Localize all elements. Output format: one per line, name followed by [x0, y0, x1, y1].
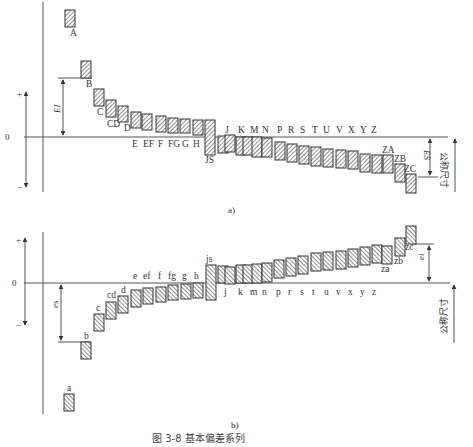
shaft-bar-n: [262, 263, 272, 282]
hole-bar-S: [299, 146, 309, 164]
hole-bar-label: Z: [371, 125, 377, 135]
shaft-bar-label: k: [238, 287, 243, 297]
hole-bar-G: [180, 119, 190, 133]
shaft-bar-label: zb: [394, 256, 403, 266]
hole-bar-label: R: [288, 125, 295, 135]
figure-caption: 图 3-8 基本偏差系列: [152, 432, 245, 444]
hole-bar-label: S: [300, 125, 305, 135]
shaft-bar-zb: [395, 238, 405, 256]
shaft-bar-label: t: [312, 287, 315, 297]
hole-bar-D: [118, 106, 128, 122]
shaft-bar-label: n: [262, 287, 267, 297]
hole-bar-sub: [225, 135, 235, 152]
hole-bar-label: P: [277, 125, 282, 135]
es-label: es: [50, 300, 60, 308]
EI-label: EI: [52, 104, 62, 114]
hole-bar-label: Y: [360, 125, 367, 135]
hole-bar-Y: [360, 154, 370, 172]
hole-bar-R: [287, 144, 297, 162]
hole-bar-label: N: [262, 125, 269, 135]
hole-bar-label: V: [336, 125, 343, 135]
shaft-bar-e: [131, 290, 141, 307]
hole-bar-label: ZC: [404, 164, 416, 174]
shaft-bar-label: cd: [107, 290, 116, 300]
hole-bar-label: C: [97, 107, 103, 117]
hole-bar-FG: [168, 118, 178, 133]
hole-bar-label: H: [193, 139, 200, 149]
upper-deviation-bars: ABCCDDEEFFFGGHJSJKMNPRSTUVXYZZAZBZC: [65, 10, 416, 193]
shaft-bar-u: [323, 252, 333, 270]
shaft-bar-label: fg: [168, 271, 176, 281]
hole-bar-CD: [106, 100, 116, 117]
ES-label: ES: [422, 149, 432, 160]
hole-bar-label: K: [238, 125, 245, 135]
hole-bar-label: M: [250, 125, 259, 135]
shaft-bar-label: c: [96, 303, 100, 313]
shaft-bar-r: [286, 258, 296, 276]
hole-bar-label: ZB: [394, 154, 406, 164]
shaft-bar-y: [360, 247, 370, 265]
hole-bar-M: [252, 137, 262, 157]
shaft-bar-ef: [143, 288, 153, 304]
shaft-bar-label: z: [372, 287, 376, 297]
shaft-bar-label: b: [84, 331, 89, 341]
shaft-bar-label: za: [381, 264, 390, 274]
shaft-bar-b: [81, 342, 91, 359]
upper-minus-label: −: [17, 182, 22, 192]
hole-bar-X: [348, 151, 358, 169]
shaft-bar-label: s: [300, 287, 304, 297]
upper-chart-holes: + 0 − EI ES 公称尺寸 ABCCDDEEFFFGGHJSJKMNPRS…: [5, 2, 455, 215]
hole-bar-label: D: [124, 123, 131, 133]
hole-bar-F: [156, 116, 166, 132]
hole-bar-E: [131, 112, 141, 128]
hole-bar-V: [336, 150, 346, 168]
hole-bar-label: X: [348, 125, 355, 135]
hole-bar-label: B: [86, 79, 92, 89]
ei-label: ei: [416, 253, 426, 260]
shaft-bar-za: [382, 246, 392, 264]
shaft-bar-label: u: [324, 287, 329, 297]
shaft-bar-t: [311, 253, 321, 271]
hole-bar-label: J: [225, 125, 229, 135]
shaft-bar-js: [206, 265, 216, 300]
shaft-bar-v: [336, 251, 346, 269]
upper-plus-label: +: [17, 89, 22, 99]
hole-bar-label: EF: [143, 139, 154, 149]
shaft-bar-fg: [168, 285, 178, 300]
shaft-bar-g: [181, 284, 191, 299]
shaft-bar-h: [193, 283, 203, 298]
shaft-bar-m: [252, 264, 262, 283]
lower-nominal-size-label: 公称尺寸: [438, 298, 449, 334]
shaft-bar-d: [118, 296, 128, 313]
hole-bar-label: A: [70, 28, 77, 38]
shaft-bar-f: [156, 287, 166, 302]
hole-bar-ZC: [406, 174, 416, 193]
shaft-bar-label: g: [182, 271, 187, 281]
shaft-bar-label: d: [121, 285, 126, 295]
shaft-bar-s: [298, 256, 308, 274]
shaft-bar-z: [372, 245, 382, 263]
shaft-bar-label: x: [348, 287, 353, 297]
shaft-bar-label: a: [67, 383, 72, 393]
hole-bar-EF: [142, 114, 152, 130]
shaft-bar-label: h: [194, 271, 199, 281]
hole-bar-ZA: [383, 155, 393, 173]
subfigure-b-label: b): [231, 420, 239, 430]
hole-bar-P: [275, 142, 285, 160]
lower-chart-shafts: + 0 − es ei 公称尺寸 abccddeefffgghjsjkmnprs…: [12, 226, 454, 430]
upper-zero-label: 0: [5, 132, 10, 142]
hole-bar-label: F: [158, 139, 163, 149]
lower-minus-label: −: [16, 320, 21, 330]
hole-bar-label: T: [312, 125, 318, 135]
hole-bar-C: [94, 89, 104, 106]
hole-bar-label: JS: [205, 155, 214, 165]
hole-bar-N: [262, 138, 272, 157]
subfigure-a-label: a): [228, 205, 235, 215]
shaft-bar-label: v: [336, 287, 341, 297]
shaft-bar-a: [64, 394, 74, 411]
hole-bar-label: E: [132, 139, 138, 149]
lower-deviation-bars: abccddeefffgghjsjkmnprstuvxyzzazbzc: [64, 226, 416, 411]
shaft-bar-label: r: [288, 287, 292, 297]
hole-bar-label: ZA: [382, 145, 395, 155]
shaft-bar-label: f: [158, 271, 162, 281]
